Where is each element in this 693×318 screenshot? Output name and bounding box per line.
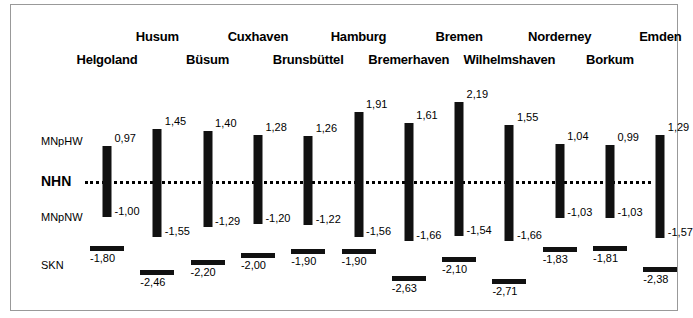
- mnphw-value-wilhelmshaven: 1,55: [517, 111, 538, 123]
- mnphw-value-b-sum: 1,40: [215, 117, 236, 129]
- station-label-husum: Husum: [136, 29, 179, 44]
- bar-helgoland: [103, 146, 112, 217]
- plot-area: MNpHWNHNMNpNWSKNHelgolandHusumBüsumCuxha…: [11, 5, 677, 310]
- axis-label-mnphw: MNpHW: [41, 135, 83, 147]
- bar-husum: [153, 129, 162, 237]
- bar-bremerhaven: [404, 123, 413, 241]
- station-label-brunsb-ttel: Brunsbüttel: [273, 52, 344, 67]
- skn-value-brunsb-ttel: -1,90: [291, 255, 316, 267]
- skn-value-emden: -2,38: [643, 273, 668, 285]
- mnpnw-value-norderney: -1,03: [567, 206, 592, 218]
- station-label-b-sum: Büsum: [186, 52, 229, 67]
- bar-norderney: [555, 144, 564, 219]
- bar-borkum: [606, 145, 615, 218]
- station-label-wilhelmshaven: Wilhelmshaven: [463, 52, 555, 67]
- bar-cuxhaven: [253, 135, 262, 224]
- skn-dash-wilhelmshaven: [492, 279, 526, 284]
- skn-dash-norderney: [543, 247, 577, 252]
- skn-dash-husum: [140, 270, 174, 275]
- mnpnw-value-hamburg: -1,56: [366, 225, 391, 237]
- skn-value-hamburg: -1,90: [342, 255, 367, 267]
- axis-label-nhn: NHN: [41, 173, 71, 189]
- station-label-borkum: Borkum: [586, 52, 634, 67]
- mnphw-value-norderney: 1,04: [567, 130, 588, 142]
- skn-value-norderney: -1,83: [543, 253, 568, 265]
- station-label-cuxhaven: Cuxhaven: [228, 29, 289, 44]
- mnphw-value-brunsb-ttel: 1,26: [316, 122, 337, 134]
- axis-label-skn: SKN: [41, 259, 64, 271]
- nhn-datum-line: [85, 181, 651, 184]
- skn-dash-b-sum: [191, 260, 225, 265]
- skn-dash-bremen: [442, 257, 476, 262]
- mnphw-value-husum: 1,45: [165, 115, 186, 127]
- axis-label-mnpnw: MNpNW: [41, 211, 83, 223]
- skn-dash-hamburg: [342, 249, 376, 254]
- mnphw-value-emden: 1,29: [668, 121, 689, 133]
- mnpnw-value-husum: -1,55: [165, 225, 190, 237]
- skn-value-borkum: -1,81: [593, 252, 618, 264]
- mnpnw-value-bremen: -1,54: [467, 224, 492, 236]
- station-label-bremerhaven: Bremerhaven: [368, 52, 449, 67]
- skn-value-husum: -2,46: [140, 276, 165, 288]
- station-label-bremen: Bremen: [435, 29, 482, 44]
- station-label-norderney: Norderney: [528, 29, 591, 44]
- mnpnw-value-helgoland: -1,00: [115, 205, 140, 217]
- mnpnw-value-bremerhaven: -1,66: [416, 229, 441, 241]
- mnpnw-value-borkum: -1,03: [618, 206, 643, 218]
- skn-value-bremerhaven: -2,63: [392, 282, 417, 294]
- mnphw-value-bremerhaven: 1,61: [416, 109, 437, 121]
- tidal-levels-figure: MNpHWNHNMNpNWSKNHelgolandHusumBüsumCuxha…: [10, 4, 678, 311]
- bar-bremen: [455, 102, 464, 236]
- skn-value-wilhelmshaven: -2,71: [492, 285, 517, 297]
- mnphw-value-bremen: 2,19: [467, 88, 488, 100]
- skn-dash-brunsb-ttel: [291, 249, 325, 254]
- mnphw-value-helgoland: 0,97: [115, 132, 136, 144]
- skn-value-bremen: -2,10: [442, 263, 467, 275]
- skn-value-helgoland: -1,80: [90, 252, 115, 264]
- mnphw-value-hamburg: 1,91: [366, 98, 387, 110]
- skn-dash-emden: [643, 267, 677, 272]
- mnpnw-value-emden: -1,57: [668, 226, 693, 238]
- bar-brunsb-ttel: [304, 136, 313, 225]
- mnpnw-value-brunsb-ttel: -1,22: [316, 213, 341, 225]
- skn-value-b-sum: -2,20: [191, 266, 216, 278]
- mnpnw-value-wilhelmshaven: -1,66: [517, 229, 542, 241]
- bar-hamburg: [354, 112, 363, 237]
- mnphw-value-borkum: 0,99: [618, 131, 639, 143]
- skn-dash-cuxhaven: [241, 253, 275, 258]
- mnphw-value-cuxhaven: 1,28: [265, 121, 286, 133]
- bar-emden: [656, 135, 665, 238]
- mnpnw-value-b-sum: -1,29: [215, 215, 240, 227]
- station-label-emden: Emden: [639, 29, 681, 44]
- skn-value-cuxhaven: -2,00: [241, 259, 266, 271]
- skn-dash-borkum: [593, 246, 627, 251]
- skn-dash-bremerhaven: [392, 276, 426, 281]
- mnpnw-value-cuxhaven: -1,20: [265, 212, 290, 224]
- station-label-helgoland: Helgoland: [76, 52, 137, 67]
- bar-wilhelmshaven: [505, 125, 514, 241]
- skn-dash-helgoland: [90, 246, 124, 251]
- station-label-hamburg: Hamburg: [331, 29, 387, 44]
- bar-b-sum: [203, 131, 212, 228]
